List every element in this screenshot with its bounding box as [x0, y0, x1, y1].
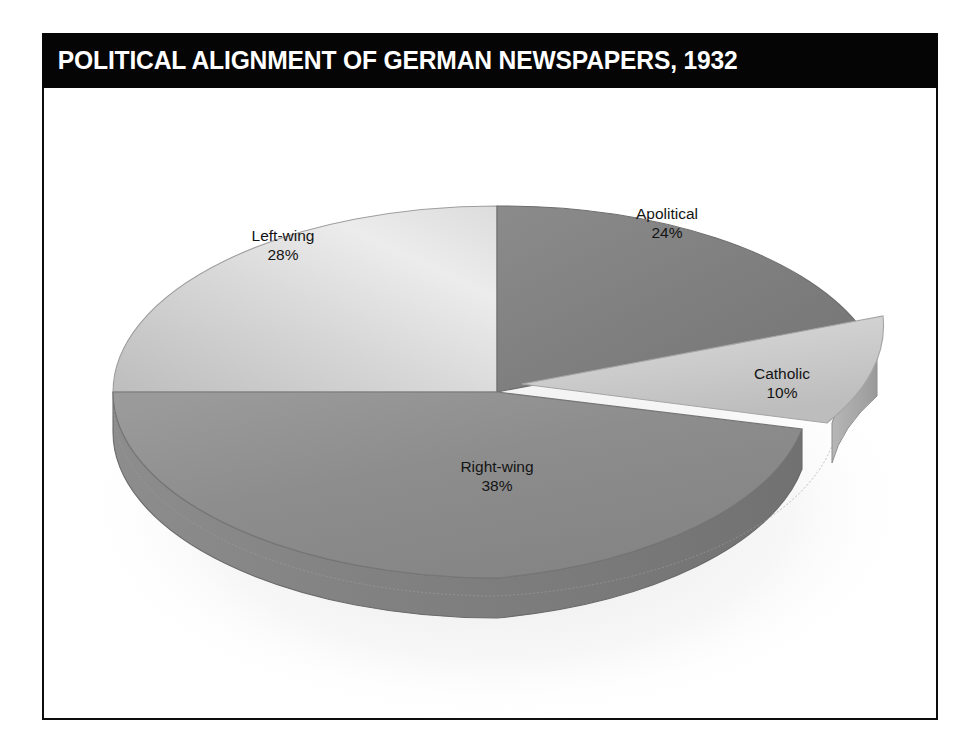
label-catholic-name: Catholic	[754, 365, 810, 382]
label-apolitical-value: 24%	[651, 224, 682, 241]
label-left-wing-name: Left-wing	[252, 227, 315, 244]
label-left-wing-value: 28%	[267, 246, 298, 263]
label-right-wing-value: 38%	[481, 477, 512, 494]
label-apolitical-name: Apolitical	[636, 205, 698, 222]
label-right-wing-name: Right-wing	[460, 458, 533, 475]
label-catholic-value: 10%	[766, 384, 797, 401]
figure-root: POLITICAL ALIGNMENT OF GERMAN NEWSPAPERS…	[0, 0, 968, 752]
page-title: POLITICAL ALIGNMENT OF GERMAN NEWSPAPERS…	[42, 45, 738, 76]
chart-title-bar: POLITICAL ALIGNMENT OF GERMAN NEWSPAPERS…	[42, 33, 938, 88]
pie-chart-3d: Apolitical 24% Catholic 10% Left-wing 28…	[42, 88, 938, 720]
